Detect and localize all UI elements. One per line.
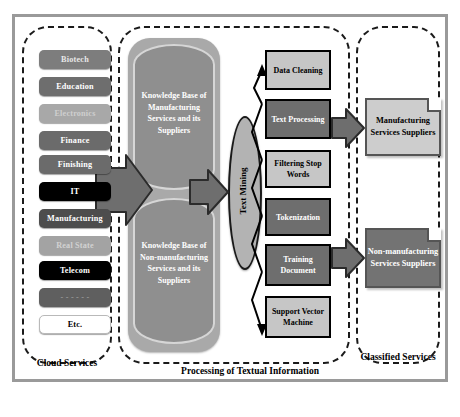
cloud-service-chip-it[interactable]: IT — [39, 182, 111, 201]
text-mining-label-wrap: Text Mining — [228, 116, 258, 266]
chip-label: Biotech — [61, 55, 89, 64]
chip-label: Real State — [56, 241, 94, 250]
pipeline-step-tokenization[interactable]: Tokenization — [265, 198, 331, 236]
cloud-service-chip[interactable]: Finance — [39, 131, 111, 150]
diagram-canvas: Knowledge Base of Manufacturing Services… — [0, 0, 460, 417]
chip-label: Manufacturing — [47, 214, 103, 223]
knowledge-base-manufacturing-label: Knowledge Base of Manufacturing Services… — [136, 90, 212, 136]
pipeline-step-filtering-stop-words[interactable]: Filtering Stop Words — [265, 150, 331, 188]
step-label: Data Cleaning — [273, 65, 322, 76]
chip-label: IT — [70, 187, 79, 196]
step-label: Training Document — [267, 254, 329, 276]
cloud-service-chip-more[interactable]: - - - - - - — [39, 288, 111, 307]
chip-label: Finishing — [58, 160, 93, 169]
output-manufacturing-services-suppliers[interactable]: Manufacturing Services Suppliers — [365, 98, 441, 156]
cloud-service-chip-telecom[interactable]: Telecom — [39, 261, 111, 280]
chip-label: - - - - - - — [61, 293, 90, 302]
step-label: Filtering Stop Words — [267, 158, 329, 180]
pipeline-step-training-document[interactable]: Training Document — [265, 244, 331, 286]
caption-processing: Processing of Textual Information — [150, 366, 350, 377]
chip-label: Electronics — [54, 109, 95, 118]
caption-cloud-services: Cloud Services — [22, 358, 112, 369]
cloud-service-chip-etc[interactable]: Etc. — [39, 315, 111, 334]
cloud-service-chip[interactable]: Finishing — [39, 155, 111, 174]
chip-label: Finance — [60, 136, 89, 145]
cloud-service-chip[interactable]: Biotech — [39, 50, 111, 69]
pipeline-step-support-vector-machine[interactable]: Support Vector Machine — [265, 296, 331, 338]
folded-corner-icon — [427, 228, 441, 242]
step-label: Text Processing — [271, 114, 324, 125]
step-label: Support Vector Machine — [267, 306, 329, 328]
cloud-service-chip[interactable]: Education — [39, 77, 111, 96]
cloud-service-chip-manufacturing[interactable]: Manufacturing — [39, 209, 111, 228]
chip-label: Telecom — [60, 266, 90, 275]
chip-label: Etc. — [68, 320, 83, 329]
pipeline-step-data-cleaning[interactable]: Data Cleaning — [265, 50, 331, 90]
cloud-service-chip[interactable]: Electronics — [39, 104, 111, 123]
folded-corner-icon — [427, 98, 441, 112]
chip-label: Education — [56, 82, 94, 91]
output-nonmanufacturing-services-suppliers[interactable]: Non-manufacturing Services Suppliers — [365, 228, 441, 288]
knowledge-base-nonmanufacturing-label: Knowledge Base of Non-manufacturing Serv… — [136, 240, 212, 286]
output-label: Manufacturing Services Suppliers — [367, 115, 439, 139]
cloud-service-chip[interactable]: Real State — [39, 236, 111, 255]
step-label: Tokenization — [276, 212, 320, 223]
text-mining-label: Text Mining — [238, 168, 248, 215]
pipeline-step-text-processing[interactable]: Text Processing — [265, 99, 331, 139]
output-label: Non-manufacturing Services Suppliers — [367, 246, 439, 270]
caption-classified-services: Classified Services — [356, 352, 440, 363]
group-classified-services — [356, 26, 440, 364]
